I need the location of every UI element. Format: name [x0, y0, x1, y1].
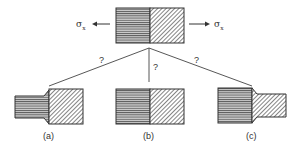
stress-label-right: σx	[214, 20, 224, 31]
arrow-left-icon	[92, 22, 110, 27]
question-mark-a: ?	[99, 56, 104, 65]
top-block	[116, 8, 184, 43]
shape-b	[116, 89, 184, 124]
arrow-right-icon	[189, 22, 210, 27]
diagram-graphics	[0, 0, 298, 148]
caption-a: (a)	[43, 132, 54, 141]
stress-label-left: σx	[76, 20, 86, 31]
shape-c	[218, 88, 286, 123]
question-mark-c: ?	[194, 56, 199, 65]
diagram: σx σx ? ? ? (a) (b) (c)	[0, 0, 298, 148]
caption-c: (c)	[246, 132, 257, 141]
branch-lines	[49, 48, 252, 86]
question-mark-b: ?	[153, 63, 158, 72]
caption-b: (b)	[143, 132, 154, 141]
shape-a	[15, 89, 83, 124]
